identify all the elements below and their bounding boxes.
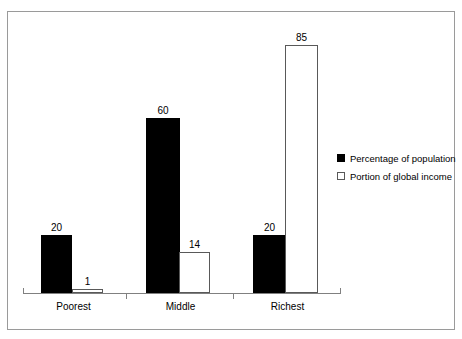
chart-frame: 20 1 60 14 20 85 Poorest Middle Richest — [7, 11, 455, 330]
x-axis-label-middle: Middle — [143, 301, 218, 312]
legend-item-percentage-of-population[interactable]: Percentage of population — [337, 152, 455, 164]
x-axis-line — [23, 293, 341, 294]
legend: Percentage of population Portion of glob… — [337, 152, 455, 188]
bar-label-richest-percentage-of-population: 20 — [253, 222, 286, 233]
plot-area: 20 1 60 14 20 85 Poorest Middle Richest — [8, 12, 454, 329]
bar-label-middle-portion-of-global-income: 14 — [179, 239, 210, 250]
legend-item-portion-of-global-income[interactable]: Portion of global income — [337, 170, 455, 182]
legend-swatch-outlined-square-icon — [337, 172, 345, 180]
x-axis-left-cap — [23, 288, 24, 294]
x-axis-right-cap — [340, 288, 341, 294]
x-axis-tick-1 — [126, 294, 127, 299]
bar-poorest-percentage-of-population[interactable] — [41, 235, 72, 293]
x-axis-label-poorest: Poorest — [36, 301, 111, 312]
legend-swatch-filled-square-icon — [337, 154, 345, 162]
bar-middle-percentage-of-population[interactable] — [146, 118, 180, 293]
bar-label-poorest-portion-of-global-income: 1 — [72, 276, 103, 287]
x-axis-tick-2 — [233, 294, 234, 299]
bar-richest-percentage-of-population[interactable] — [253, 235, 286, 293]
bar-label-richest-portion-of-global-income: 85 — [285, 32, 318, 43]
x-axis-label-richest: Richest — [250, 301, 325, 312]
bar-label-poorest-percentage-of-population: 20 — [41, 222, 72, 233]
legend-label-portion-of-global-income: Portion of global income — [350, 171, 452, 182]
bar-richest-portion-of-global-income[interactable] — [285, 45, 318, 293]
bar-label-middle-percentage-of-population: 60 — [146, 105, 180, 116]
bar-middle-portion-of-global-income[interactable] — [179, 252, 210, 293]
legend-label-percentage-of-population: Percentage of population — [350, 153, 456, 164]
